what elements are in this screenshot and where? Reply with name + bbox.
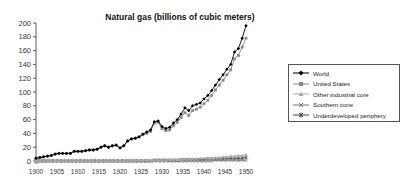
- legend-label: United States: [313, 80, 350, 87]
- chart-title: Natural gas (billions of cubic meters): [80, 12, 280, 22]
- y-tick-label: 120: [18, 74, 31, 83]
- x-tick-label: 1930: [155, 168, 170, 175]
- series-world: [34, 24, 247, 160]
- y-tick-label: 40: [23, 129, 31, 138]
- x-tick-label: 1910: [71, 168, 86, 175]
- legend-item-underdeveloped-periphery: Underdeveloped periphery: [293, 110, 395, 121]
- x-tick-label: 1950: [239, 168, 254, 175]
- y-tick-label: 180: [18, 32, 31, 41]
- legend-item-southern-cone: Southern cone: [293, 100, 395, 111]
- legend-label: Other industrial core: [313, 91, 369, 98]
- x-tick-label: 1925: [134, 168, 149, 175]
- underdeveloped-periphery-line-marker-icon: [293, 111, 309, 119]
- x-tick-label: 1945: [218, 168, 233, 175]
- y-tick-label: 140: [18, 60, 31, 69]
- world-line-marker-icon: [293, 69, 309, 77]
- x-tick-label: 1920: [113, 168, 128, 175]
- x-tick-label: 1900: [29, 168, 44, 175]
- y-tick-label: 100: [18, 88, 31, 97]
- y-tick-label: 60: [23, 115, 31, 124]
- y-tick-label: 200: [18, 19, 31, 28]
- series-united-states: [35, 37, 248, 160]
- legend-item-united-states: United States: [293, 79, 395, 90]
- axes: 0204060801001201401601802001900190519101…: [18, 19, 253, 176]
- legend-label: Underdeveloped periphery: [313, 112, 386, 119]
- legend-label: World: [313, 70, 329, 77]
- other-industrial-core-line-marker-icon: [293, 90, 309, 98]
- legend-item-world: World: [293, 68, 395, 79]
- y-tick-label: 80: [23, 101, 31, 110]
- series-lines: [34, 24, 247, 163]
- united-states-line-marker-icon: [293, 80, 309, 88]
- y-tick-label: 20: [23, 143, 31, 152]
- y-tick-label: 0: [27, 157, 31, 166]
- y-tick-label: 160: [18, 46, 31, 55]
- x-tick-label: 1935: [176, 168, 191, 175]
- legend: World United States Other industrial cor…: [288, 64, 400, 122]
- x-tick-label: 1905: [50, 168, 65, 175]
- x-tick-label: 1940: [197, 168, 212, 175]
- legend-label: Southern cone: [313, 101, 353, 108]
- southern-cone-line-marker-icon: [293, 101, 309, 109]
- legend-item-other-industrial-core: Other industrial core: [293, 89, 395, 100]
- x-tick-label: 1915: [92, 168, 107, 175]
